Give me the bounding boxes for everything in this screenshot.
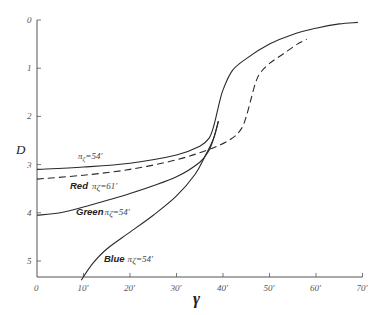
x-tick-label: 50′ xyxy=(264,283,276,293)
y-axis-title: D xyxy=(15,142,26,157)
x-axis-title: γ xyxy=(193,289,201,308)
y-tick-label: 3 xyxy=(26,160,32,170)
svg-text:Greenπζ=54′: Greenπζ=54′ xyxy=(76,206,131,219)
series-white-54 xyxy=(37,22,358,169)
annotation-green: Greenπζ=54′ xyxy=(76,206,131,219)
svg-text:Redπζ=61′: Redπζ=61′ xyxy=(70,180,118,193)
x-tick-label: 10′ xyxy=(78,283,90,293)
annotation-red: Redπζ=61′ xyxy=(70,180,118,193)
y-tick-label: 2 xyxy=(27,111,32,121)
x-tick-label: 40′ xyxy=(217,283,229,293)
svg-text:Blueπζ=54′: Blueπζ=54′ xyxy=(104,253,154,266)
annotation-blue: Blueπζ=54′ xyxy=(104,253,154,266)
axes xyxy=(37,20,363,277)
x-tick-label: 30′ xyxy=(170,283,183,293)
x-tick-label: 0 xyxy=(34,283,39,293)
svg-text:πζ=54′: πζ=54′ xyxy=(78,151,103,163)
chart: 012345010′20′30′40′50′60′70′ D γ πζ=54′ … xyxy=(0,0,379,315)
x-tick-label: 20′ xyxy=(124,283,136,293)
annotation-white: πζ=54′ xyxy=(78,151,103,163)
y-tick-label: 5 xyxy=(27,256,32,266)
y-tick-label: 1 xyxy=(27,63,32,73)
y-tick-label: 0 xyxy=(27,15,32,25)
x-tick-label: 60′ xyxy=(310,283,322,293)
x-tick-label: 70′ xyxy=(357,283,369,293)
y-tick-label: 4 xyxy=(27,208,32,218)
